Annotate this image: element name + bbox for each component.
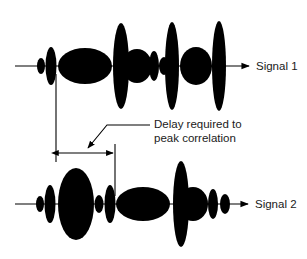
signal-2-label: Signal 2 [255, 198, 297, 210]
signal-1-lobe [165, 22, 179, 110]
signal-1-lobe [58, 48, 112, 84]
signal-2-lobes [36, 161, 230, 247]
signal-2-lobe [220, 194, 230, 214]
signal-2-lobe [116, 187, 170, 221]
signal-2-lobe [95, 195, 104, 213]
signal-1-lobe [113, 23, 129, 109]
signal-1-lobe [212, 21, 226, 111]
signal-2-lobe [36, 196, 44, 212]
signal-1-lobe [46, 47, 57, 85]
signal-2-lobe [105, 185, 116, 223]
delay-label-line-1: Delay required to [154, 118, 242, 130]
delay-label-line-2: peak correlation [154, 132, 236, 144]
signal-2-lobe [173, 161, 189, 247]
signal-1-waveform [15, 21, 249, 111]
signal-2-waveform [15, 161, 248, 247]
signal-1-label: Signal 1 [256, 60, 298, 72]
signal-1-lobes [37, 21, 226, 111]
signal-2-lobe [58, 168, 94, 240]
signal-1-lobe [37, 58, 45, 74]
signal-correlation-diagram: Signal 1 Signal 2 Delay required to peak… [0, 0, 307, 259]
delay-leader-line [88, 125, 150, 148]
signal-2-lobe [45, 185, 56, 223]
signal-1-lobe [180, 47, 212, 85]
signal-2-lobe [208, 189, 218, 219]
signal-1-lobe [149, 51, 159, 81]
